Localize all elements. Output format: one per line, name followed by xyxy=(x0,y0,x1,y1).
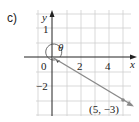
y-axis-arrow-icon xyxy=(50,10,55,17)
y-tick-1: 1 xyxy=(43,23,49,35)
x-tick-0: 0 xyxy=(41,60,47,72)
coordinate-plane: y x 1 −2 0 2 4 θ (5, −3) xyxy=(0,0,139,122)
y-tick-neg2: −2 xyxy=(36,80,48,92)
x-tick-4: 4 xyxy=(105,60,111,72)
ray xyxy=(52,57,132,105)
point-5-neg3 xyxy=(121,98,125,102)
x-tick-2: 2 xyxy=(77,60,83,72)
grid xyxy=(36,10,131,116)
point-label: (5, −3) xyxy=(89,103,119,116)
y-axis-label: y xyxy=(41,11,47,23)
x-axis-label: x xyxy=(129,58,135,70)
theta-label: θ xyxy=(58,41,64,53)
